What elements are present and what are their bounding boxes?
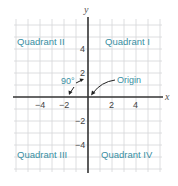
y-axis-label: y xyxy=(83,4,89,15)
x-tick-label: 2 xyxy=(109,100,114,110)
origin-arrow-icon xyxy=(91,80,115,96)
x-tick-label: 4 xyxy=(133,100,138,110)
quadrant-iv-label: Quadrant IV xyxy=(101,149,153,160)
right-angle-label: 90° xyxy=(61,76,75,86)
y-tick-label: 4 xyxy=(80,44,85,54)
y-tick-label: 2 xyxy=(80,68,85,78)
x-axis-label: x xyxy=(164,91,170,102)
y-tick-label: −4 xyxy=(75,140,85,150)
y-tick-label: −2 xyxy=(75,116,85,126)
quadrant-iii-label: Quadrant III xyxy=(17,149,67,160)
x-tick-label: −2 xyxy=(59,100,69,110)
quadrant-ii-label: Quadrant II xyxy=(17,36,65,47)
coordinate-plane: x y −4 −2 2 4 4 2 −2 −4 Quadrant II Quad… xyxy=(0,0,178,186)
quadrant-i-label: Quadrant I xyxy=(105,36,150,47)
x-tick-label: −4 xyxy=(35,100,45,110)
origin-label: Origin xyxy=(117,75,141,85)
